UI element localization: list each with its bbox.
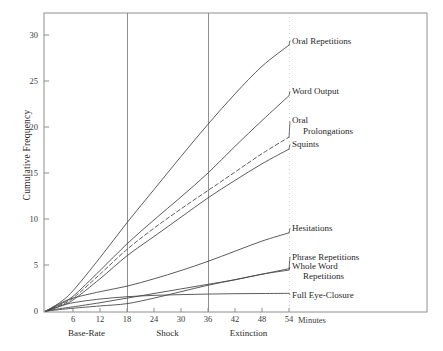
data-series-lines bbox=[46, 45, 289, 311]
series-line-oral-prolongations bbox=[46, 137, 289, 311]
plot-frame bbox=[44, 13, 427, 312]
leader-line bbox=[289, 91, 290, 96]
leader-line bbox=[289, 228, 290, 233]
phase-label-extinction: Extinction bbox=[209, 329, 289, 338]
x-tick-label: 6 bbox=[61, 315, 85, 324]
y-tick-label: 25 bbox=[10, 77, 38, 86]
y-tick-label: 30 bbox=[10, 31, 38, 40]
y-axis-title: Cumulative Frequency bbox=[22, 80, 32, 230]
cumulative-frequency-chart: Cumulative Frequency 051015202530 612182… bbox=[0, 0, 443, 351]
x-axis-ticks bbox=[73, 308, 289, 312]
chart-canvas bbox=[0, 0, 443, 351]
x-axis-unit-label: Minutes bbox=[298, 315, 326, 325]
series-label-oral-prolongations: OralProlongations bbox=[292, 115, 353, 135]
y-tick-label: 5 bbox=[10, 261, 38, 270]
x-tick-label: 42 bbox=[223, 315, 247, 324]
series-label-line: Whole Word bbox=[292, 261, 344, 271]
leader-line bbox=[289, 121, 290, 137]
series-label-line: Repetitions bbox=[292, 271, 344, 281]
series-label-squints: Squints bbox=[292, 139, 319, 149]
series-label-hesitations: Hesitations bbox=[292, 223, 333, 233]
series-line-oral-repetitions bbox=[46, 45, 289, 311]
x-tick-label: 18 bbox=[115, 315, 139, 324]
y-tick-label: 20 bbox=[10, 123, 38, 132]
x-tick-label: 12 bbox=[88, 315, 112, 324]
y-tick-label: 10 bbox=[10, 215, 38, 224]
x-tick-label: 48 bbox=[250, 315, 274, 324]
x-tick-label: 30 bbox=[169, 315, 193, 324]
series-label-oral-repetitions: Oral Repetitions bbox=[292, 36, 351, 46]
series-label-line: Prolongations bbox=[292, 126, 353, 136]
phase-label-base-rate: Base-Rate bbox=[47, 329, 127, 338]
phase-divider-lines bbox=[128, 13, 209, 312]
x-tick-label: 24 bbox=[142, 315, 166, 324]
y-tick-label: 15 bbox=[10, 169, 38, 178]
label-leader-lines bbox=[289, 13, 290, 312]
y-tick-label: 0 bbox=[10, 307, 38, 316]
y-axis-ticks bbox=[44, 35, 49, 311]
series-label-word-output: Word Output bbox=[292, 86, 339, 96]
series-label-whole-word-repetitions: Whole WordRepetitions bbox=[292, 261, 344, 281]
series-label-full-eye-closure: Full Eye-Closure bbox=[292, 290, 354, 300]
series-line-word-output bbox=[46, 96, 289, 311]
series-label-line: Oral bbox=[292, 115, 353, 125]
x-tick-label: 36 bbox=[196, 315, 220, 324]
series-line-hesitations bbox=[46, 233, 289, 311]
phase-label-shock: Shock bbox=[128, 329, 208, 338]
